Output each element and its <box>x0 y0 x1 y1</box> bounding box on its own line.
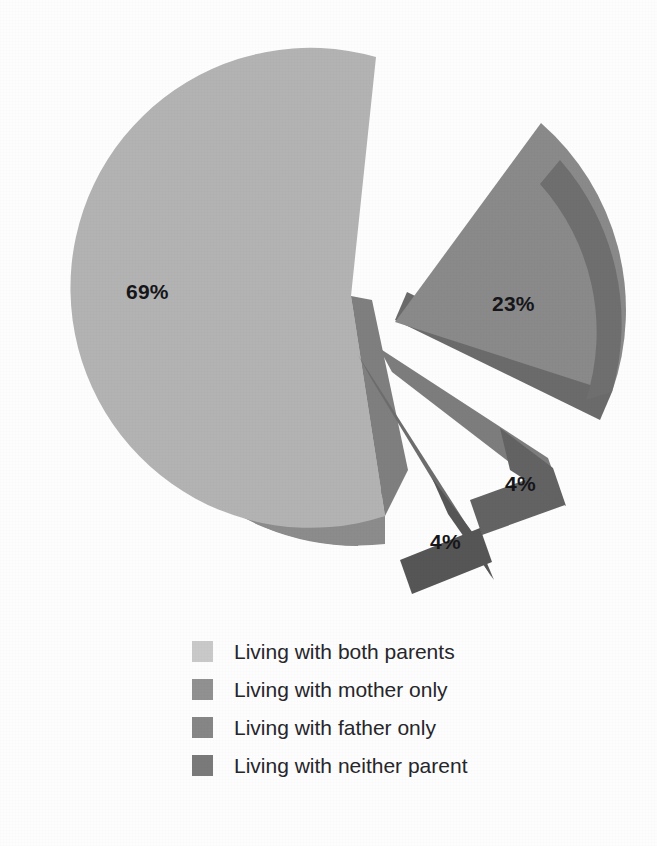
legend-item-neither-parent[interactable]: Living with neither parent <box>192 746 467 784</box>
legend-label: Living with both parents <box>234 641 455 662</box>
legend-swatch-icon <box>192 679 213 700</box>
chart-page: 69% 23% 4% 4% Living with both parents L… <box>0 0 657 846</box>
slice-label-neither-parent: 4% <box>430 530 461 554</box>
legend-item-mother-only[interactable]: Living with mother only <box>192 670 467 708</box>
legend-swatch-icon <box>192 755 213 776</box>
legend-label: Living with neither parent <box>234 755 467 776</box>
legend-item-both-parents[interactable]: Living with both parents <box>192 632 467 670</box>
legend-label: Living with father only <box>234 717 436 738</box>
legend-label: Living with mother only <box>234 679 448 700</box>
slice-label-mother-only: 23% <box>492 292 535 316</box>
pie-chart-figure: 69% 23% 4% 4% <box>0 0 657 620</box>
legend-swatch-icon <box>192 717 213 738</box>
slice-label-both-parents: 69% <box>126 280 169 304</box>
legend-item-father-only[interactable]: Living with father only <box>192 708 467 746</box>
chart-legend: Living with both parents Living with mot… <box>192 632 467 784</box>
legend-swatch-icon <box>192 641 213 662</box>
slice-both-parents[interactable] <box>70 48 385 528</box>
pie-chart-svg <box>0 0 657 620</box>
slice-label-father-only: 4% <box>505 472 536 496</box>
